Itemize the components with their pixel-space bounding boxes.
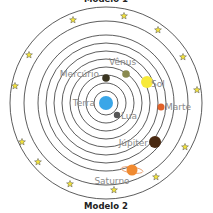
star-icon [182,143,189,150]
label-mercurio: Mercúrio [60,69,100,79]
planet-venus [122,70,130,78]
label-terra: Terra [72,98,95,108]
solar-system-diagram: Modelo 1 TerraLuaMercúrioVênusSolMarteJú… [0,0,213,213]
star-icon [121,12,128,19]
star-icon [155,26,162,33]
star-icon [180,53,187,60]
star-icon [67,180,74,187]
planet-lua [114,112,120,118]
star-icon [26,51,33,58]
label-lua: Lua [121,111,137,121]
star-icon [153,173,160,180]
star-icon [12,82,19,89]
label-sol: Sol [151,79,165,89]
planet-marte [158,104,165,111]
star-icon [70,16,77,23]
planet-mercurio [102,74,110,82]
label-jupiter: Júpiter [118,138,149,148]
planet-jupiter [149,136,161,148]
label-marte: Marte [165,102,192,112]
planet-saturno [127,165,138,176]
star-icon [194,86,201,93]
label-venus: Vênus [109,57,136,67]
star-icon [35,158,42,165]
bottom-title: Modelo 2 [84,201,128,211]
planet-terra [99,96,113,110]
star-icon [111,186,118,193]
label-saturno: Saturno [94,176,130,186]
top-title: Modelo 1 [84,0,128,4]
